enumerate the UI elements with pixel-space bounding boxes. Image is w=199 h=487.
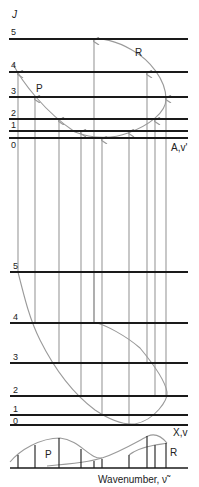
spectrum: P R Wavenumber, ν̃ [10, 435, 188, 485]
j-axis-label: J [11, 9, 18, 20]
upper-state-label: A,v' [171, 142, 187, 153]
lower-state-label: X,v [173, 427, 187, 438]
lower-j-4: 4 [13, 312, 18, 322]
r-branch-label: R [135, 47, 142, 58]
upper-j-0: 0 [11, 140, 16, 150]
upper-j-1: 1 [11, 120, 16, 130]
upper-j-5: 5 [11, 27, 16, 37]
upper-j-2: 2 [11, 108, 16, 118]
lower-branch-curve [18, 272, 167, 424]
lower-j-1: 1 [13, 404, 18, 414]
lower-j-0: 0 [13, 416, 18, 426]
upper-j-3: 3 [11, 86, 16, 96]
transition-arrows [18, 41, 166, 425]
lower-levels [10, 272, 188, 425]
spectrum-p-label: P [45, 449, 52, 460]
lower-j-5: 5 [13, 261, 18, 271]
wavenumber-axis-label: Wavenumber, ν̃ [98, 474, 171, 485]
upper-j-4: 4 [11, 60, 16, 70]
spectrum-r-label: R [170, 447, 177, 458]
lower-j-2: 2 [13, 385, 18, 395]
p-branch-label: P [36, 83, 43, 94]
lower-j-3: 3 [13, 352, 18, 362]
rotational-level-diagram: J 5 4 3 2 1 0 A,v' P R 5 4 3 2 1 0 X,v [0, 0, 199, 487]
